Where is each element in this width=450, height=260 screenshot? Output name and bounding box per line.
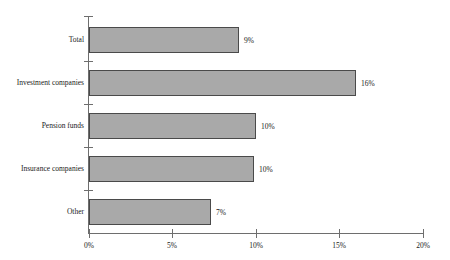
bar-investment-companies [89,70,356,96]
category-label-investment-companies: Investment companies [17,78,84,87]
x-axis-tick-label-20: 20% [416,241,430,250]
category-label-other: Other [67,207,84,216]
category-label-pension-funds: Pension funds [42,121,84,130]
x-axis-tick [256,229,257,238]
x-axis-tick-label-15: 15% [332,241,346,250]
x-axis-tick-label-0: 0% [84,241,94,250]
x-axis-tick [423,229,424,238]
bar-insurance-companies [89,156,254,182]
bar-value-other: 7% [216,208,226,217]
x-axis-tick [339,229,340,238]
bar-value-insurance-companies: 10% [259,165,273,174]
x-axis-tick-label-10: 10% [249,241,263,250]
bar-total [89,27,239,53]
bar-value-investment-companies: 16% [361,79,375,88]
bar-chart: Total Investment companies Pension funds… [0,0,450,260]
bar-other [89,199,211,225]
bar-pension-funds [89,113,256,139]
x-axis-tick [89,229,90,238]
plot-area: 9% 16% 10% 10% 7% [89,18,423,233]
bar-value-pension-funds: 10% [261,122,275,131]
x-axis-tick [172,229,173,238]
bar-value-total: 9% [244,36,254,45]
x-axis-tick-label-5: 5% [167,241,177,250]
category-label-insurance-companies: Insurance companies [21,164,84,173]
category-label-total: Total [69,35,84,44]
